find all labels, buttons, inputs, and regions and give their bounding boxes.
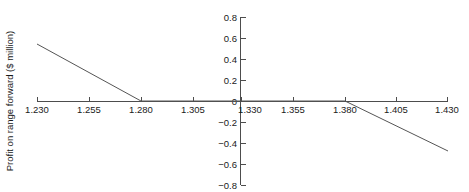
left-x-tick-label-1_230: 1.230 xyxy=(25,104,49,115)
chart-canvas: Profit on range forward ($ million) 0.8 … xyxy=(0,0,469,192)
right-x-tick-label-1_430: 1.430 xyxy=(435,104,459,115)
left-panel-series-line xyxy=(37,44,240,101)
left-panel: 1.230 1.255 1.280 1.305 xyxy=(25,44,240,115)
right-x-tick-label-1_380: 1.380 xyxy=(333,104,357,115)
right-x-tick-label-1_405: 1.405 xyxy=(384,104,408,115)
left-x-tick-label-1_255: 1.255 xyxy=(77,104,101,115)
right-panel: 1.330 1.355 1.380 1.405 1.430 xyxy=(238,97,459,152)
left-x-tick-label-1_305: 1.305 xyxy=(181,104,205,115)
right-x-tick-label-1_355: 1.355 xyxy=(281,104,305,115)
y-tick-label-0_2: 0.2 xyxy=(224,75,237,86)
right-x-tick-label-1_330: 1.330 xyxy=(238,104,262,115)
y-axis-title: Profit on range forward ($ million) xyxy=(4,31,15,171)
y-tick-label-neg0_8: −0.8 xyxy=(218,180,237,191)
y-tick-label-0_8: 0.8 xyxy=(224,12,237,23)
y-tick-label-0_6: 0.6 xyxy=(224,33,237,44)
y-tick-label-neg0_4: −0.4 xyxy=(218,138,237,149)
y-tick-label-0_4: 0.4 xyxy=(224,54,237,65)
left-x-tick-label-1_280: 1.280 xyxy=(129,104,153,115)
y-tick-label-neg0_6: −0.6 xyxy=(218,159,237,170)
y-tick-label-neg0_2: −0.2 xyxy=(218,117,237,128)
profit-range-forward-chart: Profit on range forward ($ million) 0.8 … xyxy=(0,0,469,192)
